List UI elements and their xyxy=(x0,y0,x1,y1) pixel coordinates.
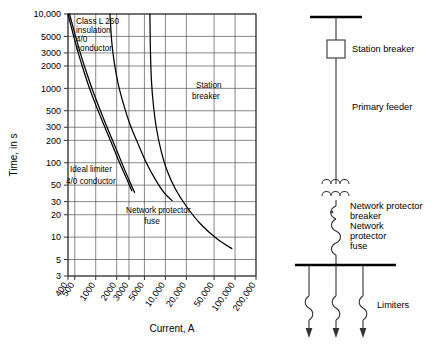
annotation-ideal-limiter-line-2: 4/0 conductor xyxy=(66,177,116,186)
annotation-station-breaker: Station breaker xyxy=(192,81,222,101)
annotation-class-l-line-1: Class L 260 xyxy=(76,17,119,26)
load-arrow-3-icon xyxy=(360,328,367,338)
annotation-class-l-line-2: insulation xyxy=(76,26,111,35)
chart-gridlines xyxy=(68,14,256,276)
network-protector-breaker-label-line-1: Network protector xyxy=(350,201,423,211)
y-tick-label-500: 500 xyxy=(46,106,61,116)
network-protector-fuse-label-line-3: fuse xyxy=(350,241,367,251)
network-protector-fuse-symbol[interactable] xyxy=(332,219,341,255)
limiter-symbol-3[interactable] xyxy=(359,296,367,320)
annotation-class-l-line-3: 4/0 xyxy=(76,35,88,44)
y-tick-label-30: 30 xyxy=(51,197,61,207)
limiter-symbol-2[interactable] xyxy=(332,296,340,320)
limiter-feeder-2 xyxy=(332,265,340,338)
y-tick-label-5000: 5000 xyxy=(41,32,61,42)
y-tick-label-10000: 10,000 xyxy=(33,9,61,19)
annotation-class-l-line-4: conductor xyxy=(76,44,112,53)
y-tick-label-300: 300 xyxy=(46,122,61,132)
figure-svg: 10,0005000300020001000500300200100503020… xyxy=(0,0,440,344)
y-tick-label-100: 100 xyxy=(46,158,61,168)
x-tick-label-20000: 20,000 xyxy=(164,280,188,308)
y-tick-label-1000: 1000 xyxy=(41,84,61,94)
chart-plot-frame xyxy=(68,14,256,276)
station-breaker-symbol[interactable] xyxy=(327,40,345,58)
y-tick-label-200: 200 xyxy=(46,136,61,146)
annotation-ideal-limiter-line-1: Ideal limiter xyxy=(70,165,112,174)
x-tick-label-10000: 10,000 xyxy=(143,280,167,308)
x-tick-label-1000: 1000 xyxy=(78,280,98,302)
annotation-sb-line-2: breaker xyxy=(192,92,220,101)
primary-feeder-label: Primary feeder xyxy=(352,102,412,112)
y-tick-label-3: 3 xyxy=(56,271,61,281)
limiter-symbol-1[interactable] xyxy=(305,296,313,320)
limiters-label: Limiters xyxy=(377,300,410,310)
y-axis-ticks: 10,0005000300020001000500300200100503020… xyxy=(33,9,68,281)
chart-panel: 10,0005000300020001000500300200100503020… xyxy=(8,9,258,334)
y-tick-label-5: 5 xyxy=(56,255,61,265)
annotation-network-protector-fuse: Network protector fuse xyxy=(126,206,191,226)
transformer-secondary-winding-icon xyxy=(322,192,349,197)
y-tick-label-2000: 2000 xyxy=(41,61,61,71)
load-arrow-2-icon xyxy=(333,328,340,338)
one-line-diagram-panel: Station breaker Primary feeder Network p… xyxy=(295,17,423,338)
limiter-feeder-1 xyxy=(305,265,313,338)
network-protector-breaker-dot-icon xyxy=(331,211,334,214)
x-tick-label-5000: 5000 xyxy=(126,280,146,302)
y-tick-label-20: 20 xyxy=(51,210,61,220)
annotation-sb-line-1: Station xyxy=(196,81,222,90)
limiter-feeder-3 xyxy=(359,265,367,338)
annotation-ideal-limiter: Ideal limiter 4/0 conductor xyxy=(66,165,116,186)
network-protector-fuse-label-line-2: protector xyxy=(350,231,386,241)
station-breaker-label: Station breaker xyxy=(352,44,414,54)
network-protector-fuse-label-line-1: Network xyxy=(350,221,384,231)
y-tick-label-10: 10 xyxy=(51,232,61,242)
x-axis-ticks: 400500100020003000500010,00020,00050,000… xyxy=(53,276,258,313)
annotation-npf-line-1: Network protector xyxy=(126,206,191,215)
curve-network-protector-fuse xyxy=(110,14,172,201)
x-axis-title: Current, A xyxy=(149,323,194,334)
annotation-npf-line-2: fuse xyxy=(144,217,160,226)
y-tick-label-50: 50 xyxy=(51,180,61,190)
load-arrow-1-icon xyxy=(306,328,313,338)
y-tick-label-3000: 3000 xyxy=(41,48,61,58)
y-axis-title: Time, in s xyxy=(8,134,19,177)
network-protector-breaker-label-line-2: breaker xyxy=(350,211,381,221)
figure-root: 10,0005000300020001000500300200100503020… xyxy=(0,0,440,344)
